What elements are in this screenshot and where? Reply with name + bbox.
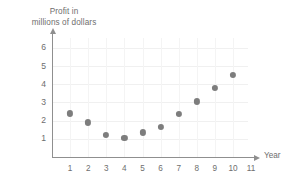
data-point bbox=[103, 132, 109, 138]
gridline-vertical bbox=[143, 38, 144, 157]
y-axis-title-line-2: millions of dollars bbox=[18, 18, 110, 29]
y-axis-tick-label: 1 bbox=[30, 134, 46, 143]
y-axis-tick-label: 6 bbox=[30, 43, 46, 52]
y-axis-title: Profit in millions of dollars bbox=[18, 7, 110, 28]
x-axis-tick-label: 2 bbox=[79, 164, 97, 173]
y-axis-tick-label: 5 bbox=[30, 62, 46, 71]
y-axis-tick-label: 2 bbox=[30, 116, 46, 125]
data-point bbox=[158, 124, 164, 130]
gridline-vertical bbox=[233, 38, 234, 157]
gridline-horizontal bbox=[52, 139, 248, 140]
x-axis-title: Year bbox=[264, 151, 281, 160]
x-axis-tick-label: 6 bbox=[152, 164, 170, 173]
gridline-vertical bbox=[106, 38, 107, 157]
y-axis-arrowhead-icon bbox=[50, 28, 56, 34]
x-axis-tick-label: 4 bbox=[115, 164, 133, 173]
data-point bbox=[176, 111, 182, 117]
x-axis-tick-label: 11 bbox=[242, 164, 260, 173]
y-axis-tick-label: 3 bbox=[30, 98, 46, 107]
data-point bbox=[67, 110, 73, 116]
x-axis-tick-label: 9 bbox=[206, 164, 224, 173]
x-axis-tick-label: 5 bbox=[134, 164, 152, 173]
data-point bbox=[230, 72, 236, 78]
data-point bbox=[121, 135, 127, 141]
x-axis-tick-label: 1 bbox=[61, 164, 79, 173]
x-axis-arrowhead-icon bbox=[254, 155, 260, 161]
gridline-vertical bbox=[161, 38, 162, 157]
y-axis-title-line-1: Profit in bbox=[18, 7, 110, 18]
x-axis-tick-label: 10 bbox=[224, 164, 242, 173]
gridline-vertical bbox=[215, 38, 216, 157]
gridline-horizontal bbox=[52, 66, 248, 67]
gridline-horizontal bbox=[52, 121, 248, 122]
gridline-vertical bbox=[179, 38, 180, 157]
gridline-vertical bbox=[88, 38, 89, 157]
x-axis-line bbox=[52, 157, 255, 158]
y-axis-tick-label: 4 bbox=[30, 80, 46, 89]
data-point bbox=[194, 98, 200, 104]
scatter-plot-figure: Profit in millions of dollars 123456 123… bbox=[0, 0, 299, 189]
x-axis-tick-label: 3 bbox=[97, 164, 115, 173]
data-point bbox=[139, 129, 145, 135]
gridline-horizontal bbox=[52, 102, 248, 103]
x-axis-tick-label: 7 bbox=[170, 164, 188, 173]
gridline-horizontal bbox=[52, 84, 248, 85]
data-point bbox=[85, 119, 91, 125]
gridline-horizontal bbox=[52, 48, 248, 49]
plot-area bbox=[52, 38, 248, 157]
x-axis-tick-label: 8 bbox=[188, 164, 206, 173]
y-axis-line bbox=[52, 33, 53, 158]
gridline-vertical bbox=[70, 38, 71, 157]
data-point bbox=[212, 85, 218, 91]
